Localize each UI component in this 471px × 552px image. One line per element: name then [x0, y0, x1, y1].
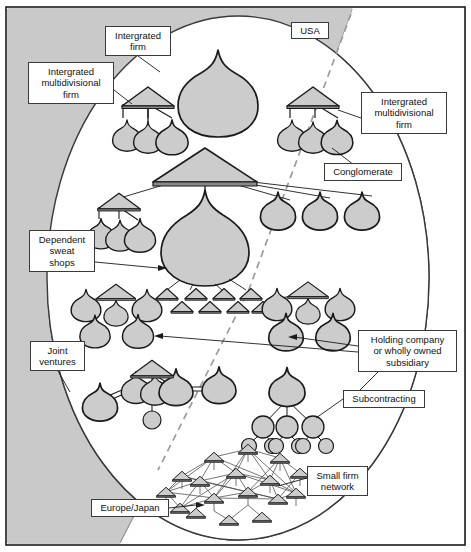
label-usa: USA — [291, 22, 329, 39]
label-holding-company: Holding company or wholly owned subsidia… — [358, 330, 457, 372]
label-subcontracting: Subcontracting — [343, 390, 425, 408]
label-conglomerate: Conglomerate — [324, 163, 402, 181]
label-europe-japan: Europe/Japan — [91, 499, 169, 517]
label-integrated-multidivisional-right: Intergrated multidivisional firm — [361, 92, 447, 134]
figure-canvas: Intergrated firm USA Intergrated multidi… — [0, 0, 471, 552]
label-small-firm-network: Small firm network — [307, 466, 368, 496]
label-joint-ventures: Joint ventures — [30, 341, 85, 371]
label-integrated-multidivisional-left: Intergrated multidivisional firm — [28, 62, 114, 104]
label-integrated-firm: Intergrated firm — [105, 26, 171, 56]
label-dependent-sweat-shops: Dependent sweat shops — [29, 230, 95, 272]
